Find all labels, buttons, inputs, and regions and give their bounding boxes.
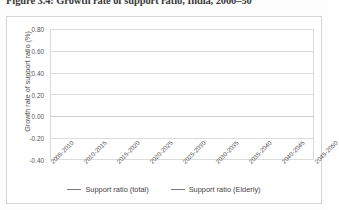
x-tick-label: 2045-2050 <box>313 139 339 165</box>
chart-legend: Support ratio (total) Support ratio (Eld… <box>6 180 322 198</box>
y-tick-label: -0.20 <box>29 135 44 142</box>
y-tick-label: -0.40 <box>29 157 44 164</box>
gridline <box>50 94 314 95</box>
y-tick-label: 0.20 <box>32 91 44 98</box>
legend-line-icon <box>171 189 185 190</box>
y-tick-label: 0.60 <box>32 47 44 54</box>
gridline <box>50 51 314 52</box>
gridline <box>50 138 314 139</box>
plot-area <box>50 29 314 160</box>
legend-label: Support ratio (total) <box>85 185 148 194</box>
y-tick-label: 0.00 <box>32 113 44 120</box>
legend-label: Support ratio (Elderly) <box>189 185 261 194</box>
y-tick-label: 0.40 <box>32 69 44 76</box>
figure-caption: Figure 3.4: Growth rate of support ratio… <box>6 0 324 8</box>
legend-item-elderly[interactable]: Support ratio (Elderly) <box>171 185 261 194</box>
gridline <box>50 29 314 30</box>
y-tick-label: 0.80 <box>32 26 44 33</box>
gridline <box>50 73 314 74</box>
legend-line-icon <box>67 189 81 190</box>
gridline-zero <box>50 116 314 117</box>
chart-frame: Growth rate of support ratio (%) 0.80 0.… <box>6 16 322 204</box>
legend-item-total[interactable]: Support ratio (total) <box>67 185 148 194</box>
y-axis-tick-labels: 0.80 0.60 0.40 0.20 0.00 -0.20 -0.40 <box>7 29 47 160</box>
